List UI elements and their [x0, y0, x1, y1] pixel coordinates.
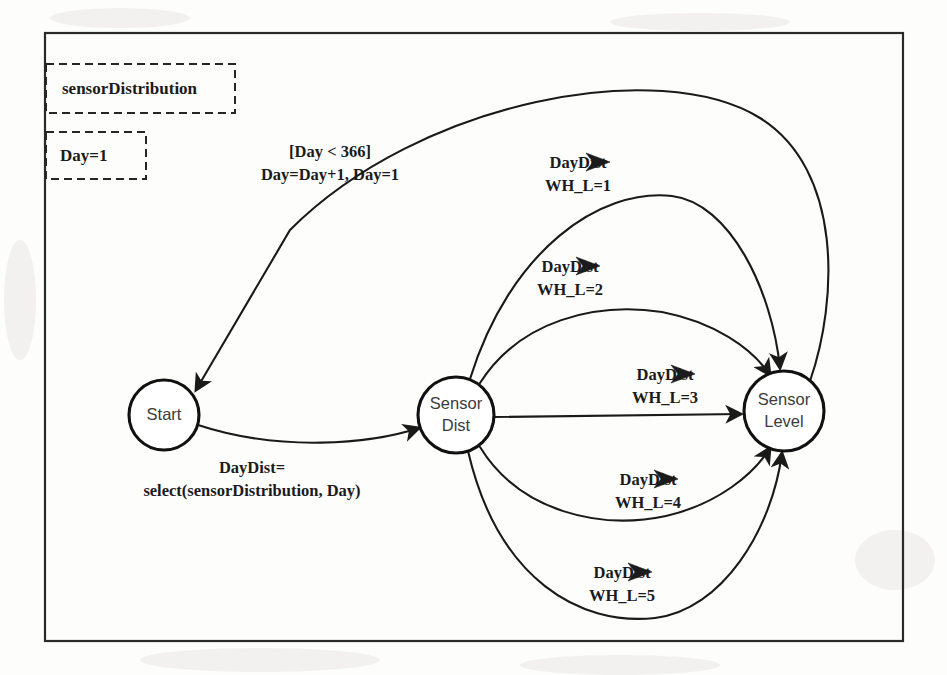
- edge-label-line2: select(sensorDistribution, Day): [143, 481, 360, 500]
- edge-label-line2: WH_L=4: [615, 493, 681, 512]
- node-sensor-level[interactable]: Sensor Level: [744, 371, 824, 451]
- node-sensor-dist[interactable]: Sensor Dist: [418, 377, 494, 453]
- node-start-label: Start: [147, 405, 182, 423]
- day-init-label: Day=1: [60, 146, 107, 165]
- node-sensor-level-label-line1: Sensor: [758, 390, 811, 408]
- node-start[interactable]: Start: [129, 380, 199, 450]
- edge-label-line2: WH_L=1: [545, 176, 611, 195]
- edge-label-line2: WH_L=2: [537, 280, 603, 299]
- node-sensor-level-label-line2: Level: [764, 412, 803, 430]
- node-sensor-dist-label-line2: Dist: [442, 416, 471, 434]
- edge-label-line1: [Day < 366]: [289, 142, 371, 161]
- edge-label-line1: DayDist=: [219, 458, 285, 477]
- state-diagram-canvas: sensorDistribution Day=1 [Day < 366] Day…: [0, 0, 947, 675]
- edge-label-line2: WH_L=3: [632, 388, 698, 407]
- page-background: [0, 0, 947, 675]
- node-sensor-dist-circle[interactable]: [418, 377, 494, 453]
- edge-label-line2: Day=Day+1, Day=1: [261, 165, 399, 184]
- node-sensor-level-circle[interactable]: [744, 371, 824, 451]
- sensor-distribution-label: sensorDistribution: [62, 79, 198, 98]
- edge-label-line2: WH_L=5: [589, 586, 655, 605]
- node-sensor-dist-label-line1: Sensor: [430, 394, 483, 412]
